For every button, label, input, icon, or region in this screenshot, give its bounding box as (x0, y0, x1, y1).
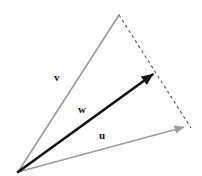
vector-w-line (18, 74, 153, 172)
vector-label-v: v (54, 72, 60, 83)
vector-label-u: u (99, 130, 105, 141)
construction-dashed-line (119, 15, 191, 128)
vector-diagram-figure: · · · · v w u (0, 0, 202, 176)
vector-label-w: w (78, 104, 86, 115)
vector-canvas (0, 0, 202, 176)
